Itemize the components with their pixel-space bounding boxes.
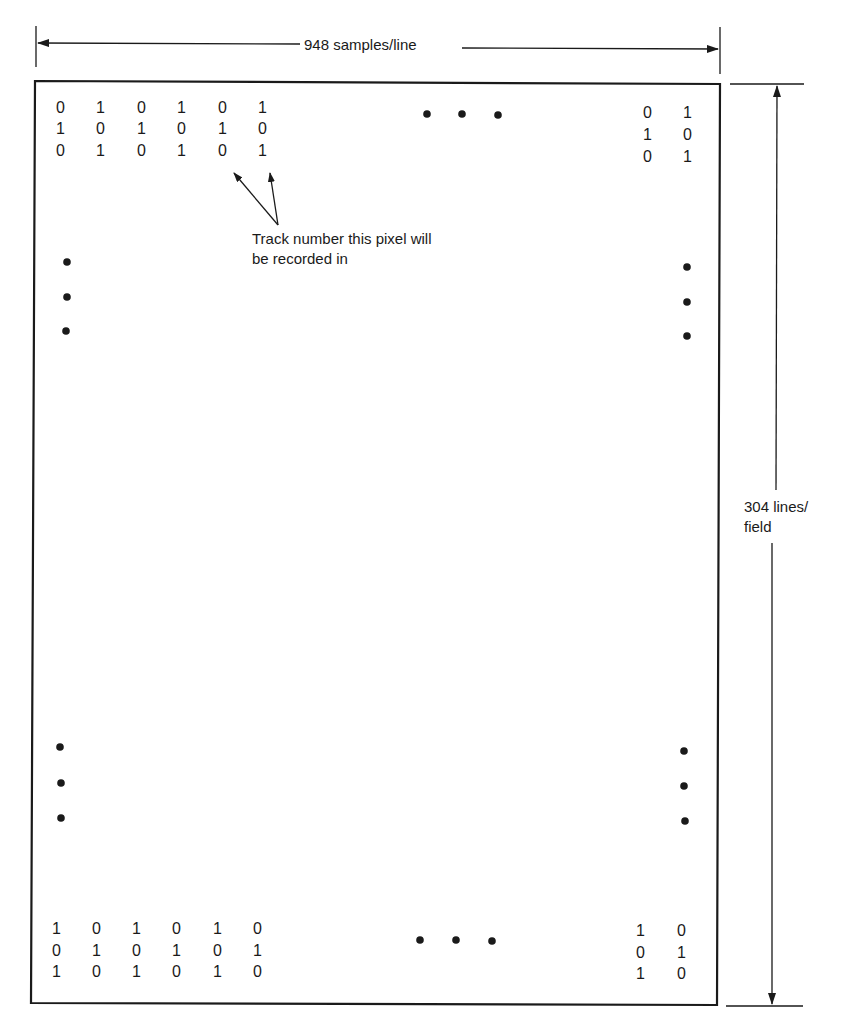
annotation-line-2: be recorded in (252, 250, 348, 267)
svg-text:1: 1 (636, 922, 645, 939)
svg-text:0: 0 (253, 920, 262, 937)
svg-text:0: 0 (56, 142, 65, 159)
svg-text:1: 1 (258, 99, 267, 116)
grid-top-left: 0 1 0 1 0 1 1 0 1 0 1 0 0 1 0 1 0 1 (56, 99, 267, 159)
svg-text:1: 1 (92, 942, 101, 959)
svg-text:1: 1 (56, 120, 65, 137)
svg-text:0: 0 (96, 120, 105, 137)
svg-text:1: 1 (96, 142, 105, 159)
svg-text:1: 1 (96, 99, 105, 116)
svg-text:0: 0 (137, 99, 146, 116)
svg-text:0: 0 (172, 920, 181, 937)
width-label: 948 samples/line (304, 36, 417, 53)
annotation-arrows (234, 173, 278, 225)
grid-bottom-right: 1 0 0 1 1 0 (636, 922, 686, 982)
svg-text:0: 0 (137, 142, 146, 159)
svg-text:1: 1 (137, 120, 146, 137)
svg-text:1: 1 (636, 965, 645, 982)
svg-text:0: 0 (677, 965, 686, 982)
svg-text:0: 0 (213, 942, 222, 959)
svg-text:1: 1 (258, 142, 267, 159)
svg-text:0: 0 (636, 944, 645, 961)
grid-top-right: 0 1 1 0 0 1 (643, 104, 692, 165)
svg-text:1: 1 (177, 99, 186, 116)
svg-text:0: 0 (643, 148, 652, 165)
svg-text:0: 0 (177, 120, 186, 137)
svg-text:1: 1 (253, 942, 262, 959)
height-label-line-1: 304 lines/ (744, 498, 809, 515)
svg-text:1: 1 (643, 126, 652, 143)
svg-text:0: 0 (52, 942, 61, 959)
pixel-track-diagram: 0 1 0 1 0 1 1 0 1 0 1 0 0 1 0 1 0 1 0 1 … (0, 0, 850, 1019)
svg-text:0: 0 (132, 942, 141, 959)
svg-text:1: 1 (683, 148, 692, 165)
svg-text:0: 0 (172, 963, 181, 980)
svg-text:1: 1 (677, 944, 686, 961)
svg-text:1: 1 (683, 104, 692, 121)
svg-text:0: 0 (677, 922, 686, 939)
field-frame (31, 81, 720, 1005)
svg-text:1: 1 (213, 963, 222, 980)
svg-text:1: 1 (132, 963, 141, 980)
svg-text:1: 1 (213, 920, 222, 937)
grid-bottom-left: 1 0 1 0 1 0 0 1 0 1 0 1 1 0 1 0 1 0 (52, 920, 262, 980)
svg-text:1: 1 (132, 920, 141, 937)
svg-text:1: 1 (177, 142, 186, 159)
svg-text:0: 0 (218, 142, 227, 159)
svg-text:0: 0 (643, 104, 652, 121)
svg-text:0: 0 (253, 963, 262, 980)
height-dimension (726, 84, 804, 1006)
height-label-line-2: field (744, 518, 772, 535)
annotation-line-1: Track number this pixel will (252, 230, 432, 247)
svg-text:1: 1 (218, 120, 227, 137)
svg-text:1: 1 (52, 920, 61, 937)
svg-text:0: 0 (683, 126, 692, 143)
svg-text:0: 0 (92, 920, 101, 937)
svg-text:1: 1 (52, 963, 61, 980)
svg-text:0: 0 (56, 99, 65, 116)
svg-text:0: 0 (218, 99, 227, 116)
svg-text:0: 0 (258, 120, 267, 137)
svg-text:0: 0 (92, 963, 101, 980)
svg-text:1: 1 (172, 942, 181, 959)
